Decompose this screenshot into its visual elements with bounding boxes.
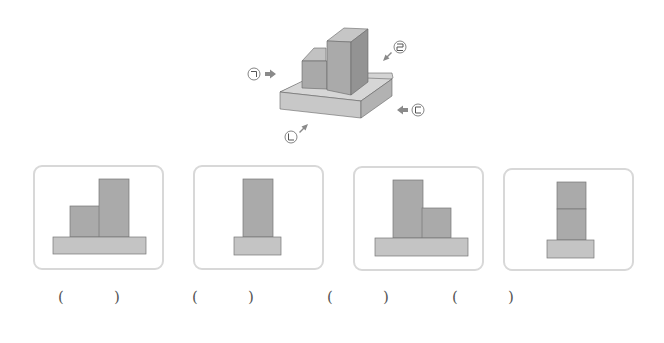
option-card-2[interactable]	[193, 165, 324, 270]
answer-blank-1[interactable]: ( )	[0, 288, 664, 308]
front-view-svg-2	[195, 167, 326, 272]
option-card-1[interactable]	[33, 165, 164, 270]
direction-arrow-giyeok	[248, 68, 276, 80]
short-block-top	[302, 48, 326, 61]
short-block	[70, 206, 100, 237]
arrow-up-right-icon	[299, 124, 308, 133]
label-circle-giyeok	[248, 68, 260, 80]
front-view-svg-1	[35, 167, 166, 272]
arrow-down-left-icon	[383, 52, 392, 61]
option-card-3[interactable]	[353, 166, 484, 271]
front-view-svg-3	[355, 168, 486, 273]
tall-block-front	[327, 41, 351, 95]
direction-arrow-rieul	[383, 41, 406, 61]
arrow-right-icon	[265, 70, 276, 79]
direction-arrow-digeut	[397, 104, 424, 116]
open-paren-1: (	[58, 288, 64, 306]
arrow-left-icon	[397, 106, 408, 115]
block-figure-svg	[0, 0, 664, 160]
label-circle-nieun	[285, 131, 297, 143]
base-slab	[53, 237, 146, 254]
tall-block	[393, 180, 423, 238]
base-slab	[547, 240, 594, 258]
lower-stacked-block	[557, 209, 586, 240]
front-view-svg-4	[505, 170, 636, 273]
tall-block	[243, 179, 273, 237]
short-block	[422, 208, 451, 238]
close-paren-1: )	[114, 288, 120, 306]
option-card-4[interactable]	[503, 168, 634, 271]
label-circle-digeut	[412, 104, 424, 116]
base-slab	[234, 237, 281, 255]
short-block-front	[302, 61, 327, 89]
upper-stacked-block	[557, 182, 586, 209]
base-slab	[375, 238, 468, 256]
tall-block	[99, 179, 129, 237]
isometric-block-figure	[0, 0, 664, 160]
direction-arrow-nieun	[285, 124, 308, 143]
